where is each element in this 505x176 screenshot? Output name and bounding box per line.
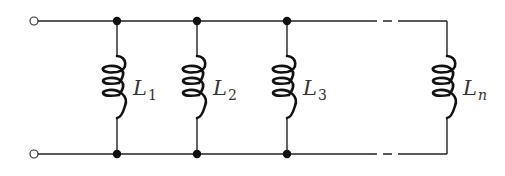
inductor-subscript: n [478,87,487,103]
coil-icon [103,56,126,118]
bottom-terminal [30,150,38,158]
junction-dot [283,17,291,25]
inductor-1: L1 [103,17,157,158]
inductor-label: Ln [462,76,487,103]
inductor-subscript: 1 [148,87,157,103]
junction-dot [113,150,121,158]
inductor-2: L2 [183,17,237,158]
inductor-subscript: 3 [318,87,327,103]
inductor-label: L2 [212,76,237,103]
inductor-label: L1 [132,76,157,103]
parallel-inductor-circuit: L1L2L3Ln [0,0,505,176]
inductor-label: L3 [302,76,327,103]
inductor-subscript: 2 [228,87,237,103]
coil-icon [183,56,206,118]
inductor-3: L3 [273,17,327,158]
junction-dot [193,150,201,158]
junction-dot [283,150,291,158]
coil-icon [273,56,296,118]
junction-dot [193,17,201,25]
inductor-n: Ln [433,21,487,154]
junction-dot [113,17,121,25]
coil-icon [433,56,456,118]
top-terminal [30,17,38,25]
